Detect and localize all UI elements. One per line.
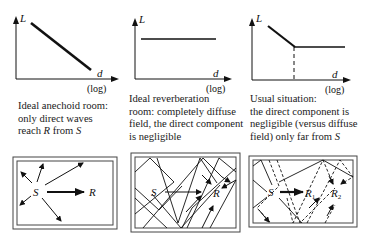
receiver-label: R [88, 186, 96, 198]
caption-line: the direct component is [250, 106, 367, 119]
graph-reverberation-plot: L d (log) [122, 0, 244, 95]
receiver-1-label: R1 [304, 187, 316, 201]
caption-line: Ideal anechoid room: [18, 100, 122, 113]
caption-line: is negligible [129, 131, 249, 144]
y-axis-label: L [255, 12, 262, 24]
room-usual: S R1 R2 [245, 150, 367, 240]
graph-reverberation: L d (log) [122, 0, 244, 95]
x-axis-label: d [332, 68, 338, 80]
source-label: S [268, 186, 274, 198]
x-axis-label: d [97, 67, 103, 79]
caption-line: Usual situation: [250, 93, 367, 106]
caption-line: only direct waves [18, 113, 122, 126]
x-axis-scale: (log) [87, 83, 106, 95]
caption-line: field) only far from S [250, 131, 367, 144]
y-axis-label: L [19, 12, 26, 24]
caption-line: reach R from S [18, 125, 122, 138]
receiver-label: R [212, 187, 220, 199]
source-label: S [33, 186, 39, 198]
graph-anechoic: L d (log) [0, 0, 122, 95]
room-anechoic: S R [0, 150, 122, 240]
graph-usual: L d (log) [245, 0, 367, 95]
room-reverberation-diagram: S R [122, 150, 244, 240]
room-anechoic-diagram: S R [0, 150, 122, 240]
source-label: S [151, 186, 157, 198]
caption-line: room: completely diffuse [129, 106, 249, 119]
caption-line: negligible (versus diffuse [250, 118, 367, 131]
caption-line: Ideal reverberation [129, 93, 249, 106]
graph-anechoic-plot: L d (log) [0, 0, 122, 95]
caption-reverberation: Ideal reverberation room: completely dif… [129, 93, 249, 143]
caption-line: field, the direct component [129, 118, 249, 131]
room-usual-diagram: S R1 R2 [245, 150, 367, 240]
caption-anechoic: Ideal anechoid room: only direct waves r… [18, 100, 122, 138]
caption-usual: Usual situation: the direct component is… [250, 93, 367, 143]
graph-usual-plot: L d (log) [245, 0, 367, 95]
room-reverberation: S R [122, 150, 244, 240]
x-axis-label: d [213, 67, 219, 79]
receiver-2-label: R2 [330, 187, 342, 201]
y-axis-label: L [138, 13, 145, 25]
